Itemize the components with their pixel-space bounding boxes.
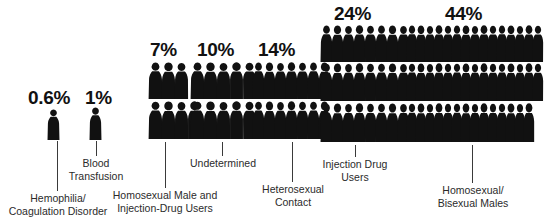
pictogram-row (406, 25, 544, 61)
person-icon (532, 25, 544, 62)
pictogram-row (47, 109, 60, 139)
person-icon (89, 107, 102, 140)
pictogram-rows-homosexual-bisexual-males (406, 25, 544, 143)
leader-line-undetermined (222, 142, 223, 156)
pictogram-row (190, 101, 257, 139)
leader-line-homosexual-male-idu (165, 142, 166, 188)
caption-injection-drug-users: Injection Drug Users (311, 158, 399, 183)
pictogram-row (320, 103, 410, 143)
value-label-homosexual-bisexual-males: 44% (445, 4, 482, 23)
value-label-injection-drug-users: 24% (334, 4, 371, 23)
caption-blood-transfusion: Blood Transfusion (61, 157, 131, 182)
value-label-hemophilia: 0.6% (28, 88, 70, 107)
value-label-homosexual-male-idu: 7% (150, 40, 177, 59)
pictogram-rows-injection-drug-users (320, 25, 410, 143)
person-icon (47, 109, 60, 140)
leader-line-hemophilia (57, 141, 58, 191)
person-icon (532, 63, 544, 101)
person-icon (523, 103, 535, 142)
pictogram-row (190, 62, 257, 98)
pictogram-row (320, 25, 410, 61)
caption-hemophilia: Hemophilia/ Coagulation Disorder (0, 192, 116, 217)
value-label-heterosexual-contact: 14% (258, 40, 295, 59)
pictogram-chart: 0.6% Hemophilia/ Coagulation Disorder 1%… (0, 0, 544, 224)
caption-homosexual-bisexual-males: Homosexual/ Bisexual Males (418, 184, 528, 209)
pictogram-rows-blood-transfusion (89, 107, 102, 139)
pictogram-row (406, 63, 544, 101)
leader-line-heterosexual-contact (292, 142, 293, 182)
pictogram-row (89, 107, 102, 139)
pictogram-rows-undetermined (190, 62, 257, 139)
leader-line-homosexual-bisexual-males (472, 145, 473, 183)
leader-line-blood-transfusion (96, 141, 97, 156)
pictogram-row (320, 63, 410, 101)
caption-homosexual-male-idu: Homosexual Male and Injection-Drug Users (106, 189, 224, 214)
value-label-blood-transfusion: 1% (85, 88, 112, 107)
caption-heterosexual-contact: Heterosexual Contact (250, 183, 336, 208)
leader-line-injection-drug-users (355, 145, 356, 157)
caption-undetermined: Undetermined (180, 157, 266, 170)
pictogram-rows-hemophilia (47, 109, 60, 139)
person-icon (174, 62, 189, 99)
value-label-undetermined: 10% (197, 40, 234, 59)
pictogram-row (406, 103, 544, 143)
